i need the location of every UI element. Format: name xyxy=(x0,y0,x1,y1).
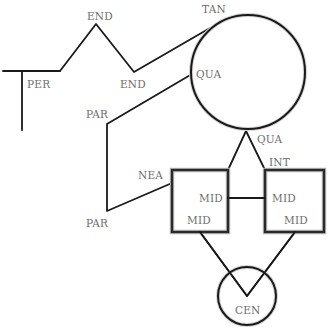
snap-diagram: PER END END TAN QUA QUA PAR PAR NEA INT … xyxy=(0,0,330,335)
label-qua-bottom: QUA xyxy=(257,133,283,145)
label-end-top: END xyxy=(87,10,113,22)
label-mid-left-box-bottom: MID xyxy=(187,214,211,226)
center-lines xyxy=(200,232,295,296)
label-tan: TAN xyxy=(202,3,226,15)
label-qua-left: QUA xyxy=(196,68,222,80)
label-end-bottom: END xyxy=(120,78,146,90)
label-mid-left-box-right: MID xyxy=(199,192,223,204)
label-cen: CEN xyxy=(235,304,261,316)
label-int: INT xyxy=(269,156,290,168)
label-mid-right-box-bottom: MID xyxy=(284,214,308,226)
center-lines-overlay xyxy=(200,232,295,296)
label-par-bottom: PAR xyxy=(86,217,109,229)
label-per: PER xyxy=(27,78,51,90)
parallel-polyline xyxy=(107,74,192,211)
endpoint-polyline xyxy=(60,24,210,72)
label-mid-right-box-left: MID xyxy=(272,192,296,204)
label-par-top: PAR xyxy=(86,108,109,120)
label-nea: NEA xyxy=(138,169,163,181)
